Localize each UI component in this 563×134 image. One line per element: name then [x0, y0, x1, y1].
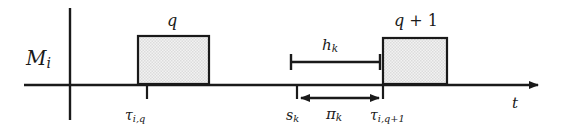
- tick-label-tau-i-q: τi,q: [125, 108, 145, 124]
- tick-label-s-k: sk: [286, 108, 299, 124]
- time-axis-label: t: [512, 96, 518, 111]
- tick-label-tau-i-q-plus-1: τi,q+1: [370, 108, 405, 124]
- operation-label-q-plus-1: q + 1: [394, 13, 438, 29]
- interval-label-pi-k: πk: [326, 107, 342, 123]
- interval-label-h-k: hk: [322, 38, 338, 54]
- timeline-figure: Mi t q q + 1 hk πk τi,q sk τi,q+1: [0, 0, 563, 134]
- operation-box-q-plus-1: [383, 38, 447, 84]
- operation-box-q: [138, 36, 209, 84]
- diagram-canvas: [0, 0, 563, 134]
- operation-label-q: q: [167, 13, 177, 29]
- machine-axis-label: Mi: [26, 48, 51, 70]
